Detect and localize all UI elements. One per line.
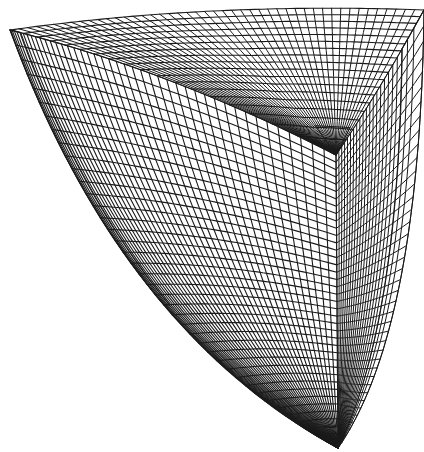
- mesh-line: [336, 87, 422, 192]
- mesh-line: [337, 341, 386, 346]
- front-face-grid: [10, 30, 338, 448]
- mesh-line: [65, 35, 409, 46]
- mesh-line: [336, 130, 419, 214]
- wireframe-figure: [0, 0, 424, 452]
- mesh-line: [337, 234, 409, 273]
- mesh-canvas: [0, 0, 424, 452]
